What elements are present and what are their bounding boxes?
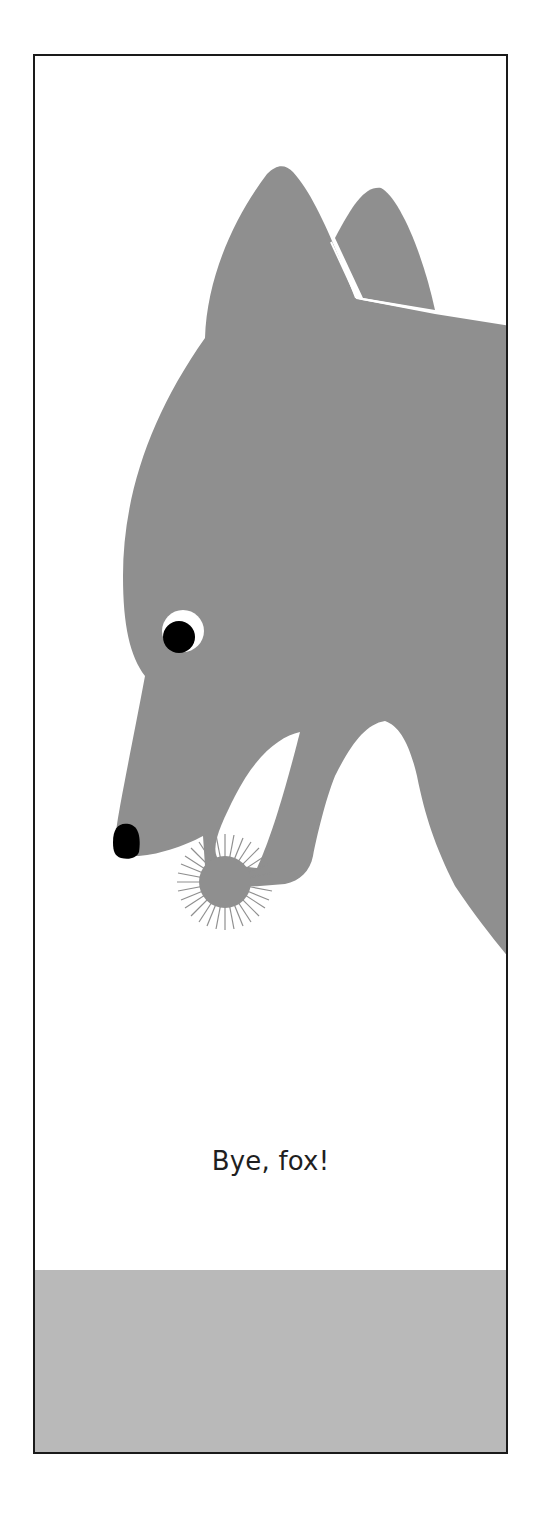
- illustration-frame: Bye, fox!: [33, 54, 508, 1454]
- nose-icon: [113, 824, 140, 859]
- wolf-illustration: [35, 56, 508, 1454]
- wolf-head-icon: [115, 166, 508, 959]
- spiky-ball-icon: [177, 834, 273, 930]
- ground: [35, 1270, 506, 1452]
- picture-book-page: Bye, fox!: [0, 0, 552, 1518]
- caption-text: Bye, fox!: [35, 1146, 506, 1176]
